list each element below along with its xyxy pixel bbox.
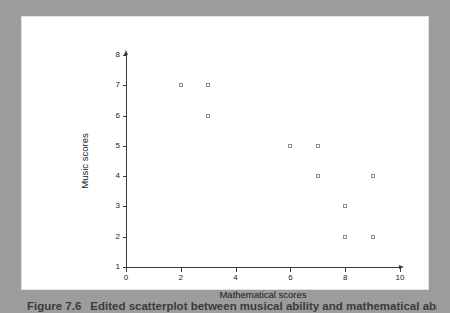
x-tick (345, 268, 346, 272)
y-tick (123, 176, 127, 177)
data-point (316, 174, 320, 178)
x-tick (126, 268, 127, 272)
x-tick (290, 268, 291, 272)
figure-card: Music scores Mathematical scores 1234567… (21, 16, 429, 290)
data-point (206, 83, 210, 87)
x-tick (181, 268, 182, 272)
y-tick-label: 8 (116, 51, 120, 59)
data-point (179, 83, 183, 87)
data-point (371, 235, 375, 239)
y-tick-label: 7 (116, 81, 120, 89)
x-tick (236, 268, 237, 272)
y-axis-title: Music scores (79, 133, 90, 188)
data-point (316, 144, 320, 148)
x-tick-label: 2 (179, 274, 183, 282)
y-tick-label: 5 (116, 142, 120, 150)
y-tick (123, 146, 127, 147)
x-tick-label: 10 (396, 274, 405, 282)
x-tick (400, 268, 401, 272)
data-point (343, 204, 347, 208)
figure-caption: Figure 7.6Edited scatterplot between mus… (27, 300, 437, 313)
scatterplot-chart: Music scores Mathematical scores 1234567… (22, 17, 428, 289)
y-tick-label: 4 (116, 172, 120, 180)
y-tick-label: 3 (116, 202, 120, 210)
x-tick-label: 0 (124, 274, 128, 282)
y-tick (123, 206, 127, 207)
x-tick-label: 6 (288, 274, 292, 282)
x-axis-title: Mathematical scores (126, 289, 400, 300)
y-tick (123, 237, 127, 238)
x-axis-line (126, 267, 401, 268)
data-point (206, 114, 210, 118)
y-tick (123, 55, 127, 56)
y-tick (123, 116, 127, 117)
data-point (288, 144, 292, 148)
y-tick (123, 85, 127, 86)
plot-area: 12345678 0246810 (126, 55, 400, 267)
x-tick-label: 4 (233, 274, 237, 282)
x-tick-label: 8 (343, 274, 347, 282)
y-tick-label: 6 (116, 112, 120, 120)
figure-page: Music scores Mathematical scores 1234567… (0, 0, 450, 313)
figure-caption-number: Figure 7.6 (27, 300, 81, 312)
y-tick-label: 2 (116, 233, 120, 241)
data-point (343, 235, 347, 239)
y-tick-label: 1 (116, 263, 120, 271)
data-point (371, 174, 375, 178)
figure-caption-text: Edited scatterplot between musical abili… (90, 300, 437, 312)
